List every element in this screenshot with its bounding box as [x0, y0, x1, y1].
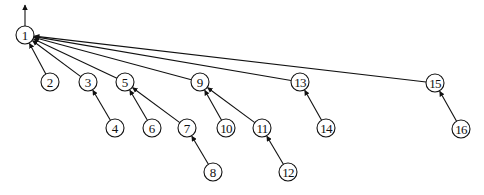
- edge-2-to-1: [30, 43, 46, 74]
- node-label: 15: [429, 76, 441, 91]
- node-label: 6: [149, 121, 156, 136]
- node-label: 13: [294, 75, 306, 90]
- node-label: 2: [47, 75, 54, 90]
- node-label: 14: [320, 121, 333, 136]
- edge-13-to-1: [34, 37, 291, 81]
- edge-10-to-9: [205, 90, 222, 120]
- tree-node-10: 10: [217, 119, 235, 137]
- tree-node-8: 8: [204, 163, 222, 181]
- edge-8-to-7: [192, 136, 209, 164]
- node-label: 1: [22, 28, 29, 43]
- tree-diagram-svg: 12359131546710111416812: [0, 0, 484, 195]
- node-label: 9: [197, 75, 204, 90]
- node-label: 3: [85, 75, 92, 90]
- tree-node-1: 1: [16, 26, 34, 44]
- tree-node-16: 16: [452, 120, 470, 138]
- edge-9-to-1: [34, 38, 191, 80]
- node-label: 7: [184, 121, 191, 136]
- edge-4-to-3: [93, 90, 111, 120]
- edge-3-to-1: [33, 41, 81, 77]
- node-label: 5: [122, 75, 129, 90]
- tree-node-13: 13: [291, 73, 309, 91]
- tree-node-11: 11: [253, 119, 271, 137]
- edge-6-to-5: [130, 90, 148, 120]
- nodes-layer: 12359131546710111416812: [16, 26, 470, 181]
- tree-node-12: 12: [279, 163, 297, 181]
- edge-7-to-5: [133, 88, 180, 123]
- edge-14-to-13: [305, 90, 322, 120]
- node-label: 8: [210, 165, 217, 180]
- tree-node-9: 9: [191, 73, 209, 91]
- node-label: 4: [112, 121, 119, 136]
- node-label: 12: [282, 165, 294, 180]
- tree-node-4: 4: [106, 119, 124, 137]
- tree-node-7: 7: [178, 119, 196, 137]
- tree-node-3: 3: [79, 73, 97, 91]
- node-label: 16: [455, 122, 468, 137]
- tree-node-14: 14: [317, 119, 335, 137]
- tree-node-5: 5: [116, 73, 134, 91]
- tree-node-6: 6: [143, 119, 161, 137]
- tree-node-15: 15: [426, 74, 444, 92]
- node-label: 11: [257, 121, 268, 136]
- tree-node-2: 2: [41, 73, 59, 91]
- tree-diagram: 12359131546710111416812: [0, 0, 484, 195]
- edge-16-to-15: [440, 91, 457, 121]
- edge-12-to-11: [267, 136, 284, 164]
- edge-11-to-9: [208, 88, 255, 123]
- node-label: 10: [220, 121, 232, 136]
